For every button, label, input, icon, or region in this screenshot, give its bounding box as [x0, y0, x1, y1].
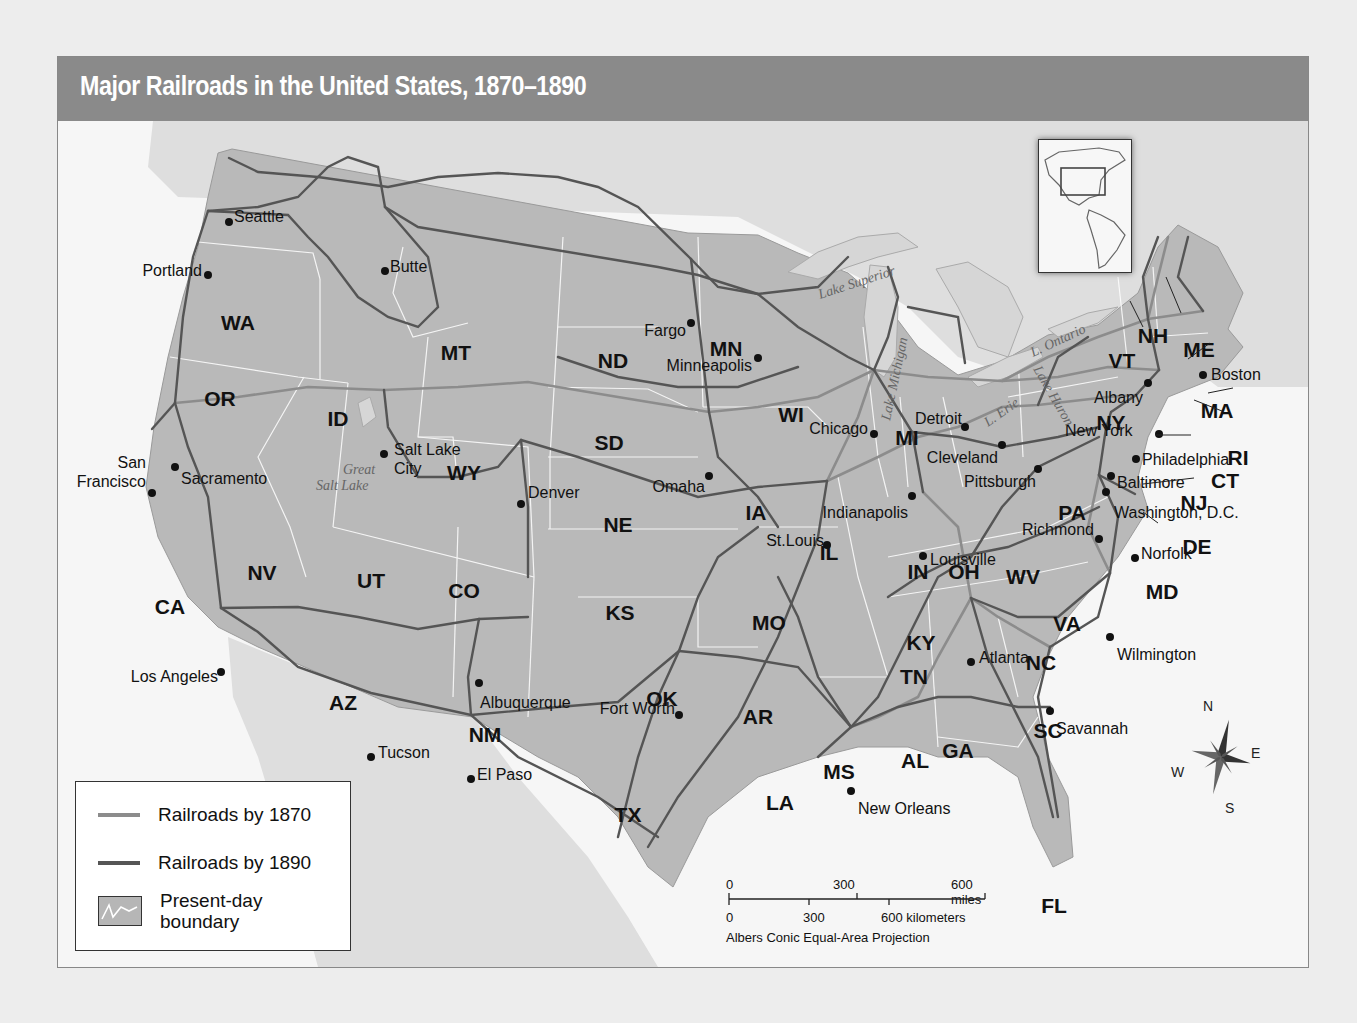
state-label-ca: CA	[155, 595, 185, 618]
city-dot	[687, 319, 695, 327]
city-dot	[381, 267, 389, 275]
city-label: Washington, D.C.	[1114, 504, 1239, 521]
state-label-nc: NC	[1026, 651, 1056, 674]
state-label-sd: SD	[594, 431, 623, 454]
state-label-tn: TN	[900, 665, 928, 688]
state-label-ms: MS	[823, 760, 855, 783]
legend-label: Railroads by 1870	[158, 804, 311, 825]
city-dot	[171, 463, 179, 471]
city-dot	[1102, 488, 1110, 496]
city-label: Fargo	[644, 322, 686, 339]
state-label-wi: WI	[778, 403, 804, 426]
state-label-ks: KS	[605, 601, 634, 624]
scale-km-300: 300	[803, 910, 825, 925]
svg-text:N: N	[1203, 698, 1213, 714]
state-label-mt: MT	[441, 341, 471, 364]
city-dot	[998, 441, 1006, 449]
city-label: Indianapolis	[823, 504, 908, 521]
state-label-ne: NE	[603, 513, 632, 536]
state-label-az: AZ	[329, 691, 357, 714]
city-dot	[908, 492, 916, 500]
state-label-il: IL	[820, 541, 839, 564]
city-dot	[225, 218, 233, 226]
state-label-ma: MA	[1201, 399, 1234, 422]
state-label-or: OR	[204, 387, 236, 410]
state-label-in: IN	[908, 560, 929, 583]
city-label: Baltimore	[1117, 474, 1185, 491]
city-dot	[204, 271, 212, 279]
city-dot	[517, 500, 525, 508]
legend-item-boundary: Present-day boundary	[98, 890, 262, 932]
state-label-fl: FL	[1041, 894, 1067, 917]
city-dot	[367, 753, 375, 761]
city-dot	[705, 472, 713, 480]
city-dot	[1095, 535, 1103, 543]
city-dot	[1106, 633, 1114, 641]
city-label: Francisco	[77, 473, 146, 490]
state-label-ky: KY	[906, 631, 935, 654]
state-label-me: ME	[1183, 338, 1215, 361]
scale-miles-300: 300	[833, 877, 855, 892]
state-label-ny: NY	[1096, 411, 1125, 434]
city-label: San	[118, 454, 146, 471]
state-label-co: CO	[448, 579, 480, 602]
city-dot	[1131, 554, 1139, 562]
city-dot	[217, 668, 225, 676]
svg-text:W: W	[1171, 764, 1185, 780]
city-dot	[380, 450, 388, 458]
state-label-mo: MO	[752, 611, 786, 634]
projection-label: Albers Conic Equal-Area Projection	[726, 930, 930, 945]
state-label-ri: RI	[1228, 446, 1249, 469]
state-label-ia: IA	[746, 501, 767, 524]
title-bar: Major Railroads in the United States, 18…	[58, 57, 1308, 121]
state-label-sc: SC	[1033, 719, 1062, 742]
city-label: Pittsburgh	[964, 473, 1036, 490]
state-label-la: LA	[766, 791, 794, 814]
city-dot	[961, 423, 969, 431]
scale-km-600: 600 kilometers	[881, 910, 966, 925]
city-label: St.Louis	[766, 532, 824, 549]
compass-rose: N E S W	[1163, 697, 1273, 817]
map-legend: Railroads by 1870 Railroads by 1890 Pres…	[75, 781, 351, 951]
city-dot	[1034, 465, 1042, 473]
state-label-ct: CT	[1211, 469, 1239, 492]
lake-label: Great	[343, 462, 376, 477]
state-label-id: ID	[328, 407, 349, 430]
state-label-nh: NH	[1138, 324, 1168, 347]
city-label: Albany	[1094, 389, 1143, 406]
city-dot	[1199, 371, 1207, 379]
legend-label: Railroads by 1890	[158, 852, 311, 873]
state-label-wv: WV	[1006, 565, 1040, 588]
city-label: Chicago	[809, 420, 868, 437]
state-label-nm: NM	[469, 723, 502, 746]
scale-bar: 0 300 600 miles 0 300 600 kilometers Alb…	[723, 877, 983, 957]
state-label-ga: GA	[942, 739, 974, 762]
state-label-ok: OK	[646, 687, 678, 710]
state-label-nv: NV	[247, 561, 276, 584]
western-hemisphere-icon	[1039, 140, 1131, 272]
state-label-md: MD	[1146, 580, 1179, 603]
scale-ruler	[723, 893, 993, 909]
compass-rose-icon: N E S W	[1163, 697, 1273, 817]
city-label: Wilmington	[1117, 646, 1196, 663]
state-label-wa: WA	[221, 311, 255, 334]
city-dot	[870, 430, 878, 438]
state-label-vt: VT	[1109, 349, 1136, 372]
city-dot	[754, 354, 762, 362]
city-dot	[919, 552, 927, 560]
city-label: Tucson	[378, 744, 430, 761]
city-label: Portland	[142, 262, 202, 279]
city-dot	[475, 679, 483, 687]
city-label: Philadelphia	[1142, 451, 1229, 468]
city-dot	[967, 658, 975, 666]
legend-item-rail-1870: Railroads by 1870	[98, 804, 311, 825]
city-dot	[1107, 472, 1115, 480]
state-label-mn: MN	[710, 337, 743, 360]
city-label: New Orleans	[858, 800, 950, 817]
city-dot	[1132, 455, 1140, 463]
svg-text:S: S	[1225, 800, 1234, 816]
city-dot	[847, 787, 855, 795]
city-label: Detroit	[915, 410, 963, 427]
map-frame: Major Railroads in the United States, 18…	[57, 56, 1309, 968]
city-label: City	[394, 460, 422, 477]
